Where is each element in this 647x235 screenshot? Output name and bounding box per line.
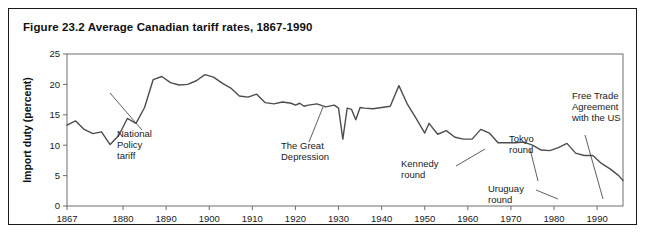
annotation-national-policy: NationalPolicytariff [117,128,152,161]
y-tick-label: 20 [49,79,60,90]
y-tick-label: 10 [49,140,60,151]
x-tick-label: 1990 [587,213,608,224]
y-tick-label: 5 [55,170,60,181]
annotation-line: Policy [117,139,143,150]
leader-line-national-policy [110,93,142,130]
annotation-line: round [401,169,425,180]
figure-container: Figure 23.2 Average Canadian tariff rate… [8,8,637,225]
annotation-line: Kennedy [401,158,439,169]
annotation-line: tariff [117,150,136,161]
annotation-labels: NationalPolicytariffThe GreatDepressionK… [117,90,621,205]
leader-line-kennedy-round [456,149,485,166]
x-tick-label: 1920 [285,213,306,224]
annotation-line: Agreement [572,101,619,112]
x-tick-label: 1970 [500,213,521,224]
x-tick-label: 1950 [414,213,435,224]
annotation-line: round [509,144,533,155]
tariff-line-chart: 0510152025 18671880189019001910192019301… [9,9,638,226]
annotation-line: Free Trade [572,90,618,101]
y-tick-label: 25 [49,48,60,59]
annotation-uruguay-round: Uruguayround [488,183,524,205]
x-tick-label: 1930 [328,213,349,224]
annotation-line: Uruguay [488,183,524,194]
x-tick-label: 1880 [112,213,133,224]
annotation-tokyo-round: Tokyoround [509,133,534,155]
x-tick-label: 1910 [242,213,263,224]
annotation-line: with the US [571,112,621,123]
x-axis-ticks: 1867188018901900191019201930194019501960… [56,206,607,224]
x-tick-label: 1960 [457,213,478,224]
leader-line-free-trade-agreement [585,135,603,199]
y-tick-label: 15 [49,109,60,120]
annotation-line: National [117,128,152,139]
y-axis-ticks: 0510152025 [49,48,67,211]
x-tick-label: 1940 [371,213,392,224]
annotation-line: Depression [281,151,329,162]
y-axis-title-text: Import duty (percent) [21,77,33,183]
annotation-kennedy-round: Kennedyround [401,158,439,180]
annotation-great-depression: The GreatDepression [281,140,329,162]
y-axis-title: Import duty (percent) [21,77,33,183]
chart-plot-area: 0510152025 18671880189019001910192019301… [9,9,638,226]
annotation-line: round [488,194,512,205]
leader-line-great-depression [309,107,323,142]
x-tick-label: 1980 [543,213,564,224]
x-tick-label: 1900 [199,213,220,224]
leader-line-uruguay-round [536,190,558,199]
y-tick-label: 0 [55,200,60,211]
annotation-free-trade-agreement: Free TradeAgreementwith the US [571,90,621,123]
annotation-line: The Great [281,140,324,151]
annotation-line: Tokyo [509,133,534,144]
x-tick-label: 1890 [156,213,177,224]
x-tick-label: 1867 [56,213,77,224]
